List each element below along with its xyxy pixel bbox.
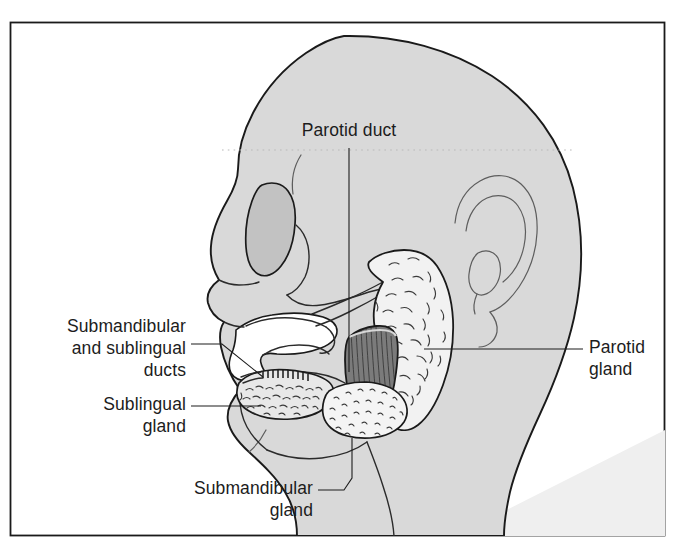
label-submandibular-gland-line2: gland [270,500,313,520]
label-submandibular-ducts-line2: and sublingual [72,338,186,358]
label-sublingual-gland-line2: gland [143,416,186,436]
salivary-gland-diagram: Salivary glands of the head (lateral vie… [0,0,678,553]
label-parotid-duct: Parotid duct [302,120,397,140]
label-submandibular-ducts-line1: Submandibular [67,316,186,336]
label-parotid-duct-line1: Parotid duct [302,120,397,140]
figure-root: Salivary glands of the head (lateral vie… [0,0,678,553]
label-submandibular-ducts-line3: ducts [144,360,186,380]
sublingual-gland [237,370,334,419]
label-parotid-gland-line1: Parotid [589,337,645,357]
label-sublingual-gland-line1: Sublingual [103,394,186,414]
label-submandibular-gland-line1: Submandibular [194,478,313,498]
label-parotid-gland-line2: gland [589,359,632,379]
